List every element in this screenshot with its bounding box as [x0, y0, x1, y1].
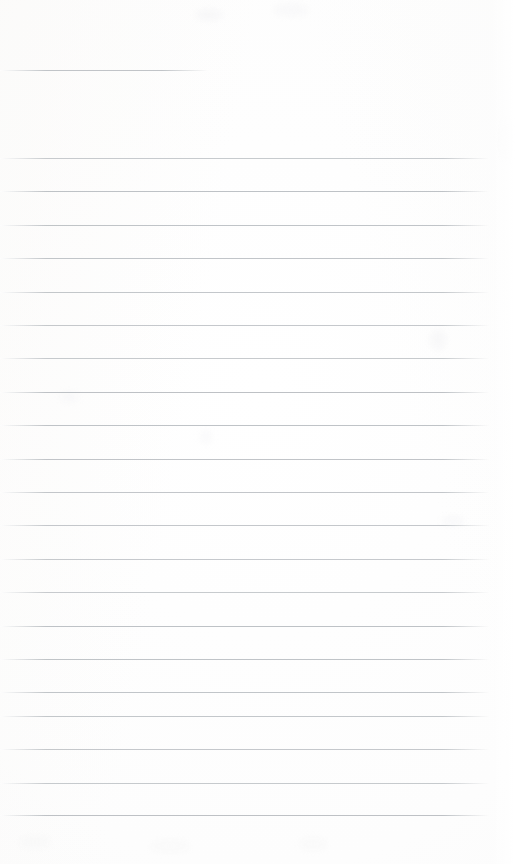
ruled-lines: [0, 0, 526, 864]
ruled-line: [0, 559, 489, 560]
ruled-line: [0, 815, 489, 816]
ruled-line: [0, 425, 489, 426]
ruled-line: [0, 292, 489, 293]
ruled-line: [0, 716, 489, 717]
ruled-line: [0, 626, 489, 627]
ruled-line: [0, 191, 489, 192]
ruled-line: [0, 158, 489, 159]
ruled-line: [0, 592, 489, 593]
ruled-line: [0, 258, 489, 259]
ruled-line: [0, 392, 489, 393]
ruled-line: [0, 225, 489, 226]
ruled-line: [0, 783, 489, 784]
ruled-line: [0, 492, 489, 493]
ruled-line: [0, 692, 489, 693]
ruled-line: [0, 325, 489, 326]
ruled-line: [0, 358, 489, 359]
ruled-line: [0, 525, 489, 526]
lined-paper-page: [0, 0, 526, 864]
ruled-line: [0, 659, 489, 660]
header-rule: [0, 70, 208, 71]
ruled-line: [0, 749, 489, 750]
ruled-line: [0, 459, 489, 460]
